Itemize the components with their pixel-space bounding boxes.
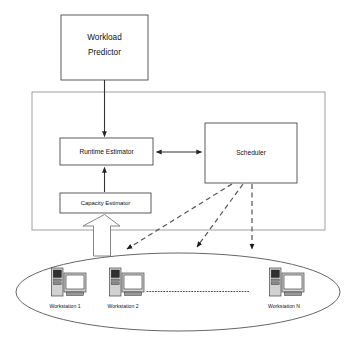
node-capacity-estimator[interactable]: Capacity Estimator bbox=[60, 193, 151, 213]
workstation-1-tower-bay-icon bbox=[53, 270, 61, 278]
node-scheduler[interactable]: Scheduler bbox=[205, 123, 297, 183]
workstation-n-label: Workstation N bbox=[268, 303, 300, 309]
workstation-1-label: Workstation 1 bbox=[49, 303, 80, 309]
workstation-1-tower-slot-icon bbox=[53, 279, 61, 281]
workstation-2-screen-icon bbox=[124, 275, 142, 289]
connector-cluster-to-capacity bbox=[83, 215, 120, 257]
workstation-2[interactable]: Workstation 2 bbox=[107, 268, 144, 309]
node-workload-predictor[interactable]: Workload Predictor bbox=[61, 15, 148, 80]
workstation-1[interactable]: Workstation 1 bbox=[49, 268, 86, 309]
workstation-n[interactable]: Workstation N bbox=[268, 268, 304, 309]
workstation-1-tower-slot2-icon bbox=[53, 283, 61, 285]
runtime-estimator-label: Runtime Estimator bbox=[79, 148, 134, 155]
workload-predictor-label-line1: Workload bbox=[87, 33, 122, 42]
workstation-1-monitor-base-icon bbox=[67, 292, 84, 295]
connector-scheduler-to-workstation-2 bbox=[197, 184, 243, 247]
workload-predictor-label-line2: Predictor bbox=[88, 48, 121, 57]
workstation-2-tower-bay-icon bbox=[111, 270, 119, 278]
diagram-canvas: Workload Predictor Runtime Estimator Sch… bbox=[0, 0, 357, 342]
capacity-estimator-label: Capacity Estimator bbox=[81, 200, 130, 206]
architecture-diagram: Workload Predictor Runtime Estimator Sch… bbox=[0, 0, 357, 342]
workstation-2-tower-slot-icon bbox=[111, 279, 119, 281]
workstation-n-tower-slot-icon bbox=[271, 279, 279, 281]
workstation-2-monitor-base-icon bbox=[125, 292, 142, 295]
workstation-1-screen-icon bbox=[66, 275, 84, 289]
workstation-2-tower-slot2-icon bbox=[111, 283, 119, 285]
workstation-n-screen-icon bbox=[284, 275, 302, 289]
scheduler-label: Scheduler bbox=[236, 149, 266, 156]
workstation-n-tower-bay-icon bbox=[271, 270, 279, 278]
workstation-n-monitor-base-icon bbox=[285, 292, 302, 295]
workstation-2-label: Workstation 2 bbox=[107, 303, 138, 309]
node-runtime-estimator[interactable]: Runtime Estimator bbox=[60, 138, 153, 165]
workstation-n-tower-slot2-icon bbox=[271, 283, 279, 285]
